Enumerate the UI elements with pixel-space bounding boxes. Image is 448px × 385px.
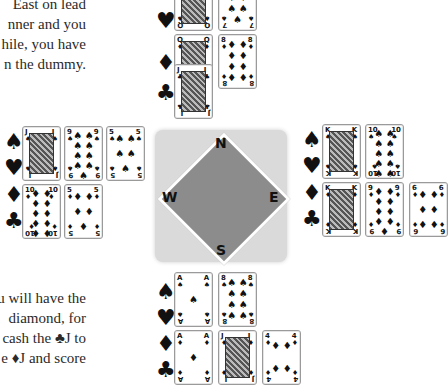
card-pips: ♦ [182, 335, 205, 380]
face-card-art [181, 0, 206, 24]
text-line: nner and you [1, 14, 86, 34]
west-clubs-suit-icon: ♣ [4, 210, 24, 232]
text-line: e ♦J and score [0, 348, 86, 368]
compass-west: W [162, 189, 177, 205]
north-card-7-spades: 7♠7♠7♠7♠♠♠♠♠♠♠♠ [218, 0, 257, 31]
text-line: hile, you have [1, 34, 86, 54]
card-pips: ♦♦♦♦♦♦♦♦♦ [373, 187, 396, 232]
card-pips: ♦♦♦♦ [270, 335, 293, 380]
east-spades-suit-icon: ♠ [302, 129, 322, 151]
north-hearts-suit-icon: ♥ [156, 10, 176, 32]
card-pips: ♠♠♠♠♠♠♠♠ [226, 277, 249, 322]
south-card-8-spades: 8♠8♠8♠8♠♠♠♠♠♠♠♠♠ [218, 272, 257, 327]
west-card-5-diamonds: 5♦5♦5♦5♦♦♦♦♦♦ [64, 184, 103, 239]
north-diamonds-suit-icon: ♦ [156, 52, 176, 74]
face-card-art [29, 133, 54, 174]
north-card-8-diamonds: 8♦8♦8♦8♦♦♦♦♦♦♦♦♦ [218, 34, 257, 89]
card-pips: ♦♦♦♦♦ [72, 189, 95, 234]
south-card-4-diamonds: 4♦4♦4♦4♦♦♦♦♦ [262, 330, 301, 385]
face-card-art [329, 189, 354, 230]
west-card-5-spades: 5♠5♠5♠5♠♠♠♠♠♠ [106, 126, 145, 181]
card-pips: ♦♦♦♦♦♦ [417, 187, 440, 232]
west-diamonds-suit-icon: ♦ [4, 184, 24, 206]
card-pips: ♠♠♠♠♠♠♠♠♠ [72, 131, 95, 176]
west-card-9-spades: 9♠9♠9♠9♠♠♠♠♠♠♠♠♠♠ [64, 126, 103, 181]
face-card-art [329, 131, 354, 172]
south-card-J-diamonds: J♦J♦J♦J♦ [218, 330, 257, 385]
card-pips: ♠♠♠♠♠ [114, 131, 137, 176]
east-card-10-spades: 10♠10♠10♠10♠♠♠♠♠♠♠♠♠♠♠ [365, 124, 404, 179]
text-line: diamond, for [0, 308, 86, 328]
compass-north: N [215, 135, 227, 151]
text-line: East on lead [1, 0, 86, 14]
text-line: u will have the [0, 288, 86, 308]
compass-south: S [216, 242, 226, 258]
card-pips: ♦♦♦♦♦♦♦♦ [226, 39, 249, 84]
east-hearts-suit-icon: ♥ [302, 155, 322, 177]
north-card-J-clubs: J♣J♣J♣J♣ [174, 64, 213, 119]
east-card-9-diamonds: 9♦9♦9♦9♦♦♦♦♦♦♦♦♦♦ [365, 182, 404, 237]
face-card-art [181, 71, 206, 112]
west-hearts-suit-icon: ♥ [4, 157, 24, 179]
compass: N W E S [155, 130, 287, 262]
north-card-Q-spades: Q♠Q♠Q♠Q♠ [174, 0, 213, 31]
text-paragraph-top: East on lead nner and you hile, you have… [1, 0, 86, 74]
compass-east: E [269, 189, 279, 205]
card-pips: ♠ [182, 277, 205, 322]
south-clubs-suit-icon: ♣ [156, 359, 176, 381]
south-diamonds-suit-icon: ♦ [156, 333, 176, 355]
text-paragraph-bottom: u will have the diamond, for cash the ♣J… [0, 288, 86, 368]
west-spades-suit-icon: ♠ [4, 131, 24, 153]
text-line: cash the ♣J to [0, 328, 86, 348]
east-card-K-spades: K♠K♠K♠K♠ [322, 124, 361, 179]
north-clubs-suit-icon: ♣ [156, 82, 176, 104]
south-card-A-spades: A♠A♠A♠A♠♠ [174, 272, 213, 327]
east-diamonds-suit-icon: ♦ [302, 182, 322, 204]
south-spades-suit-icon: ♠ [156, 281, 176, 303]
west-card-10-diamonds: 10♦10♦10♦10♦♦♦♦♦♦♦♦♦♦♦ [22, 184, 61, 239]
east-clubs-suit-icon: ♣ [302, 208, 322, 230]
card-pips: ♦♦♦♦♦♦♦♦♦♦ [30, 189, 53, 234]
west-card-J-spades: J♠J♠J♠J♠ [22, 126, 61, 181]
face-card-art [225, 337, 250, 378]
south-hearts-suit-icon: ♥ [156, 307, 176, 329]
south-card-A-diamonds: A♦A♦A♦A♦♦ [174, 330, 213, 385]
east-card-K-diamonds: K♦K♦K♦K♦ [322, 182, 361, 237]
card-pips: ♠♠♠♠♠♠♠♠♠♠ [373, 129, 396, 174]
card-pips: ♠♠♠♠♠♠♠ [226, 0, 249, 26]
text-line: n the dummy. [1, 54, 86, 74]
east-card-6-diamonds: 6♦6♦6♦6♦♦♦♦♦♦♦ [409, 182, 448, 237]
